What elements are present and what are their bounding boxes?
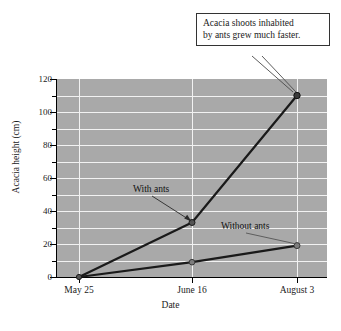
x-tick-june-16 <box>192 278 193 283</box>
y-tick-label-100: 100 <box>39 108 53 117</box>
x-tick-may-25 <box>79 278 80 283</box>
y-tick-label-80: 80 <box>43 141 52 150</box>
y-tick-label-60: 60 <box>43 174 52 183</box>
y-tick-minor-50 <box>52 195 57 196</box>
x-tick-label-may-25: May 25 <box>64 285 93 295</box>
x-axis-title: Date <box>0 300 341 310</box>
series-label-with-ants: With ants <box>133 184 169 194</box>
gridline-vertical-may-25 <box>79 79 80 277</box>
series-label-without-ants: Without ants <box>221 221 269 231</box>
gridline-vertical-june-16 <box>192 79 193 277</box>
gridline-vertical-august-3 <box>297 79 298 277</box>
y-tick-minor-10 <box>52 261 57 262</box>
y-tick-minor-90 <box>52 129 57 130</box>
y-axis-title: Acacia height (cm) <box>11 92 21 222</box>
y-tick-minor-30 <box>52 228 57 229</box>
x-tick-label-june-16: June 16 <box>177 285 206 295</box>
x-tick-label-august-3: August 3 <box>280 285 315 295</box>
y-tick-minor-110 <box>52 96 57 97</box>
callout-line-2: by ants grew much faster. <box>203 30 324 42</box>
y-tick-minor-70 <box>52 162 57 163</box>
chart-figure: 120 100 80 60 40 20 0 May 25 June 16 Aug… <box>0 0 341 331</box>
y-tick-label-20: 20 <box>43 240 52 249</box>
plot-area <box>57 79 327 277</box>
y-tick-label-40: 40 <box>43 207 52 216</box>
y-tick-label-120: 120 <box>39 75 53 84</box>
y-tick-label-0: 0 <box>48 273 53 282</box>
callout-line-1: Acacia shoots inhabited <box>203 18 324 30</box>
callout-box: Acacia shoots inhabited by ants grew muc… <box>196 13 330 46</box>
x-tick-august-3 <box>297 278 298 283</box>
